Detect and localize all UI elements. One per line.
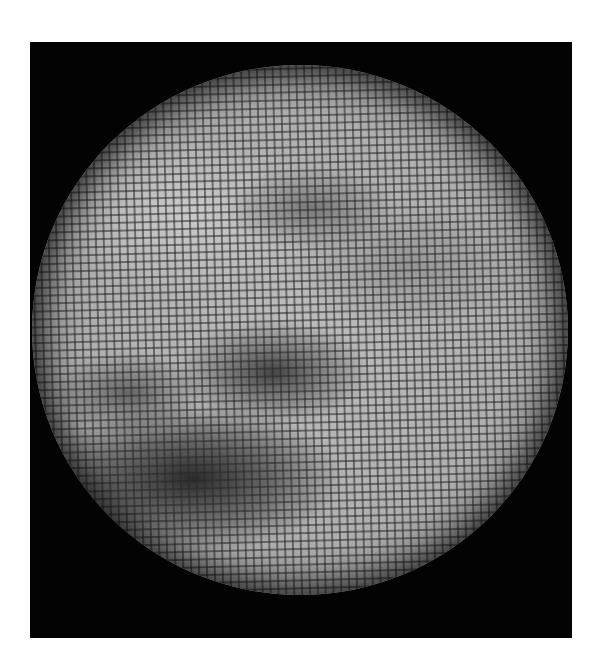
image-frame: [30, 42, 572, 638]
planet-disk: [32, 65, 568, 595]
